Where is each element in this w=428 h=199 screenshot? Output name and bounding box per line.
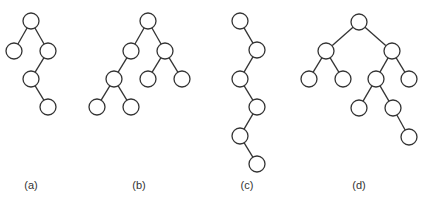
tree-b-edge-LL-LLR xyxy=(118,86,127,100)
tree-a-node-r xyxy=(23,13,39,29)
tree-b-node-RR xyxy=(174,71,190,87)
tree-d-edge-R-RR xyxy=(396,58,405,72)
tree-d-node-RLRR xyxy=(401,129,417,145)
tree-b-node-r xyxy=(140,13,156,29)
tree-b-edge-L-LL xyxy=(118,58,127,72)
tree-b-edge-LL-LLL xyxy=(101,86,110,100)
tree-figure: (a) (b) (c) (d) xyxy=(0,0,428,199)
tree-a-node-L xyxy=(6,43,22,59)
tree-c-node-R xyxy=(249,42,265,58)
tree-b-edge-R-RR xyxy=(169,58,178,72)
tree-c-node-RLRL xyxy=(232,128,248,144)
tree-d-node-r xyxy=(351,14,367,30)
tree-b-node-RL xyxy=(140,71,156,87)
tree-d-edge-RLR-RLRR xyxy=(397,115,405,130)
tree-d-edge-RL-RLL xyxy=(363,86,372,101)
tree-label-d: (d) xyxy=(352,179,365,191)
tree-d-edge-L-LL xyxy=(313,58,322,72)
tree-a-edge-RL-RLR xyxy=(35,86,44,100)
tree-c-node-RLR xyxy=(249,99,265,115)
tree-c-edge-RL-RLR xyxy=(244,86,253,100)
tree-b-node-LLR xyxy=(123,99,139,115)
tree-d-node-RR xyxy=(401,71,417,87)
tree-d-node-RL xyxy=(368,71,384,87)
tree-a-edge-R-RL xyxy=(35,58,44,72)
tree-d-node-LL xyxy=(301,71,317,87)
tree-d-node-L xyxy=(318,43,334,59)
tree-d-edge-r-R xyxy=(365,27,386,45)
tree-b-edge-r-L xyxy=(135,28,144,44)
tree-label-b: (b) xyxy=(132,179,145,191)
tree-d-edge-r-L xyxy=(332,27,353,45)
tree-c-edge-r-R xyxy=(244,28,253,43)
tree-b-node-LL xyxy=(106,71,122,87)
tree-label-a: (a) xyxy=(24,179,37,191)
tree-b-edge-r-R xyxy=(152,28,161,44)
tree-c-node-r xyxy=(232,13,248,29)
tree-d-edge-RL-RLR xyxy=(380,86,389,101)
tree-b-edge-R-RL xyxy=(152,58,161,72)
tree-b-node-LLL xyxy=(89,99,105,115)
tree-label-c: (c) xyxy=(241,179,254,191)
tree-d-edge-R-RL xyxy=(380,58,388,72)
edges-layer xyxy=(18,27,405,157)
tree-a-node-RLR xyxy=(40,99,56,115)
tree-c-edge-RLR-RLRL xyxy=(244,114,253,129)
tree-c-edge-RLRL-RLRLR xyxy=(244,143,253,157)
tree-b-node-L xyxy=(123,43,139,59)
tree-d-edge-L-LR xyxy=(330,58,339,72)
labels-layer: (a) (b) (c) (d) xyxy=(24,179,365,191)
tree-a-edge-r-L xyxy=(18,28,27,44)
tree-d-node-LR xyxy=(335,71,351,87)
tree-a-edge-r-R xyxy=(35,28,44,44)
tree-d-node-RLR xyxy=(385,100,401,116)
tree-a-node-R xyxy=(40,43,56,59)
tree-c-edge-R-RL xyxy=(244,57,253,72)
tree-c-node-RL xyxy=(232,71,248,87)
tree-d-node-RLL xyxy=(351,100,367,116)
tree-d-node-R xyxy=(384,43,400,59)
tree-c-node-RLRLR xyxy=(249,156,265,172)
tree-b-node-R xyxy=(157,43,173,59)
nodes-layer xyxy=(6,13,417,172)
tree-a-node-RL xyxy=(23,71,39,87)
